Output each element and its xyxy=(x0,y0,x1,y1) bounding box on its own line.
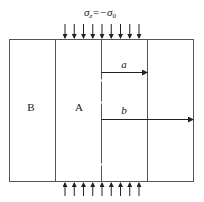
bottom-load-arrows xyxy=(65,183,139,196)
diagram-canvas: σz=−σ0 B A a b xyxy=(0,0,204,202)
radius-a-label: a xyxy=(121,58,127,70)
radius-b-label: b xyxy=(121,104,127,116)
region-b-label: B xyxy=(27,101,34,113)
top-load-arrows xyxy=(65,24,139,38)
load-label: σz=−σ0 xyxy=(84,6,116,20)
region-a-label: A xyxy=(75,101,83,113)
